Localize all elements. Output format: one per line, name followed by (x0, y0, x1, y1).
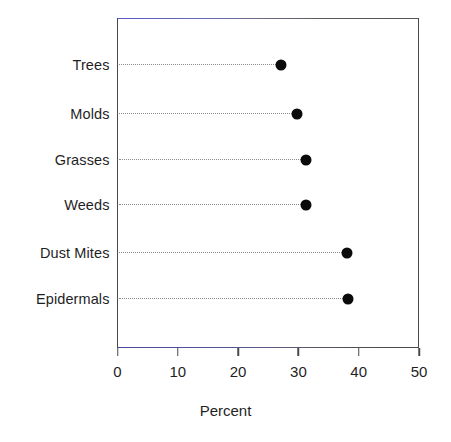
dot-plot-figure: TreesMoldsGrassesWeedsDust MitesEpiderma… (0, 0, 451, 442)
data-point-marker[interactable] (292, 109, 303, 120)
x-axis-tick-label: 40 (350, 363, 367, 380)
plot-frame-bottom-rule (118, 347, 418, 348)
data-point-marker[interactable] (301, 200, 312, 211)
category-label: Trees (72, 57, 109, 73)
category-label: Epidermals (36, 291, 110, 307)
category-label: Molds (70, 106, 109, 122)
x-axis-tick (177, 348, 179, 356)
data-point-marker[interactable] (275, 60, 286, 71)
category-label: Grasses (55, 152, 110, 168)
x-axis-tick-label: 20 (230, 363, 247, 380)
data-point-marker[interactable] (301, 155, 312, 166)
x-axis-title: Percent (0, 402, 451, 419)
leader-line (119, 159, 306, 160)
leader-line (119, 298, 347, 299)
leader-line (119, 113, 297, 114)
x-axis-tick-label: 30 (290, 363, 307, 380)
x-axis-tick-label: 0 (113, 363, 121, 380)
leader-line (119, 64, 280, 65)
leader-line (119, 204, 306, 205)
data-point-marker[interactable] (342, 248, 353, 259)
x-axis-tick (117, 348, 119, 356)
x-axis-tick (418, 348, 420, 356)
x-axis-tick-label: 50 (411, 363, 428, 380)
category-label: Dust Mites (40, 245, 110, 261)
plot-frame-top-rule (118, 18, 418, 19)
data-point-marker[interactable] (342, 294, 353, 305)
leader-line (119, 252, 347, 253)
x-axis-tick (237, 348, 239, 356)
category-label: Weeds (64, 197, 109, 213)
x-axis-tick (358, 348, 360, 356)
x-axis-tick-label: 10 (169, 363, 186, 380)
x-axis-tick (298, 348, 300, 356)
